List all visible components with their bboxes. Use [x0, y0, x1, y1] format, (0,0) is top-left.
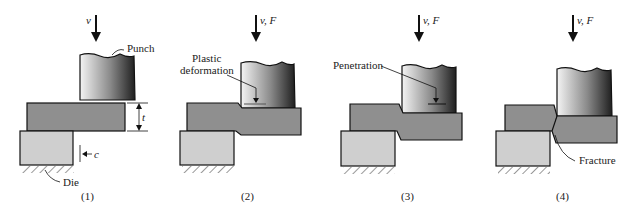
fracture-label: Fracture — [579, 154, 616, 166]
panel-1: v Punch t c Die (1) — [20, 14, 155, 203]
panel-3: v, F Penetration (3) — [333, 14, 462, 203]
penetration-label: Penetration — [333, 59, 384, 71]
thickness-label: t — [142, 111, 146, 123]
shearing-diagram: v Punch t c Die (1) v, F Plastic deform — [0, 0, 634, 211]
die — [20, 131, 73, 165]
punch — [80, 54, 135, 100]
panel-4: v, F Fracture (4) — [496, 14, 617, 203]
sheet — [27, 103, 125, 131]
die-label: Die — [63, 176, 79, 188]
caption-4: (4) — [556, 190, 569, 203]
clearance-label: c — [94, 148, 99, 160]
caption-1: (1) — [81, 190, 94, 203]
panel-2: v, F Plastic deformation (2) — [180, 14, 301, 203]
caption-3: (3) — [401, 190, 414, 203]
plastic-label: Plastic — [192, 52, 221, 64]
velocity-label: v — [86, 14, 91, 26]
punch-label: Punch — [127, 42, 155, 54]
force-label: v, F — [260, 14, 277, 26]
force-label-3: v, F — [423, 14, 440, 26]
force-label-4: v, F — [577, 14, 594, 26]
caption-2: (2) — [241, 190, 254, 203]
deformation-label: deformation — [180, 64, 234, 76]
